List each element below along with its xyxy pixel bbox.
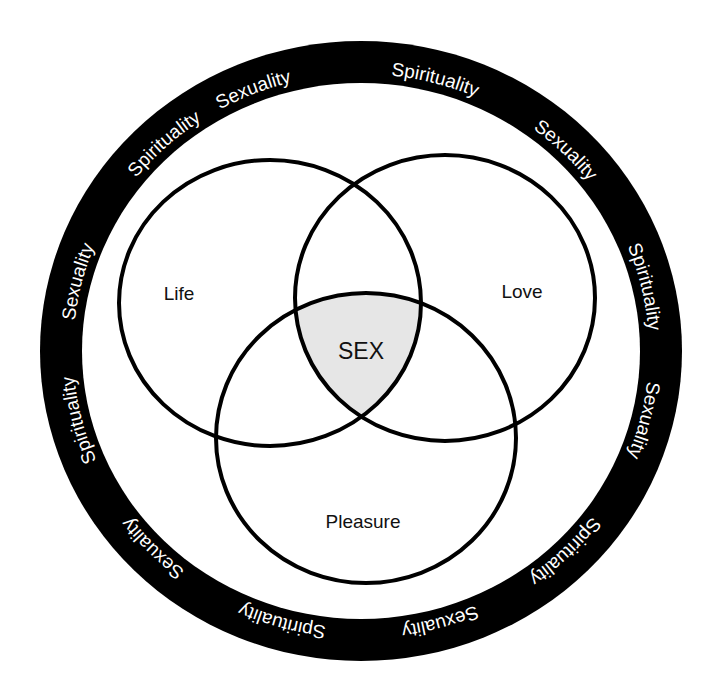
venn-diagram: SpiritualitySexualitySpiritualitySexuali… [0,0,712,697]
label-sex: SEX [338,338,384,364]
label-pleasure: Pleasure [326,511,401,532]
label-love: Love [501,281,542,302]
label-life: Life [164,283,195,304]
